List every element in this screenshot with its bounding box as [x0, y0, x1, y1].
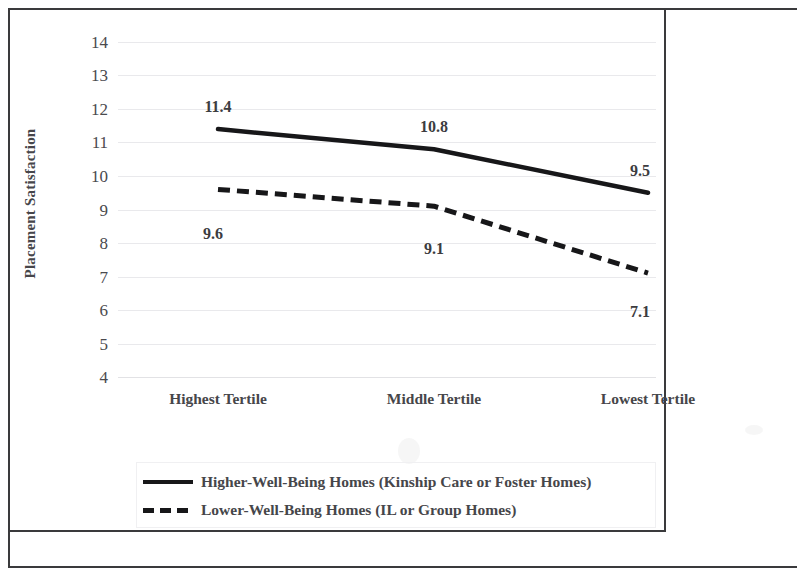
data-label-dashed-0: 9.6	[190, 225, 236, 243]
gridline-6	[118, 310, 656, 311]
y-tick-7: 7	[74, 269, 108, 286]
y-tick-12: 12	[74, 101, 108, 118]
y-tick-10: 10	[74, 168, 108, 185]
x-tick-lowest-tertile: Lowest Tertile	[568, 390, 728, 408]
gridline-5	[118, 344, 656, 345]
y-tick-5: 5	[74, 336, 108, 353]
data-label-solid-2: 9.5	[617, 162, 663, 180]
y-tick-8: 8	[74, 235, 108, 252]
y-tick-11: 11	[74, 134, 108, 151]
gridline-10	[118, 176, 656, 177]
series-line-lower-well-being	[218, 189, 648, 273]
chart-legend: Higher-Well-Being Homes (Kinship Care or…	[136, 462, 656, 528]
legend-label-lower-well-being: Lower-Well-Being Homes (IL or Group Home…	[201, 501, 516, 519]
y-tick-9: 9	[74, 202, 108, 219]
gridline-11	[118, 142, 656, 143]
y-tick-6: 6	[74, 302, 108, 319]
data-label-dashed-1: 9.1	[411, 240, 457, 258]
legend-item-lower-well-being: Lower-Well-Being Homes (IL or Group Home…	[143, 497, 516, 523]
data-label-solid-1: 10.8	[411, 118, 457, 136]
gridline-13	[118, 75, 656, 76]
x-tick-middle-tertile: Middle Tertile	[354, 390, 514, 408]
gridline-8	[118, 243, 656, 244]
x-tick-highest-tertile: Highest Tertile	[138, 390, 298, 408]
series-line-higher-well-being	[218, 129, 648, 193]
y-axis-title: Placement Satisfaction	[22, 104, 39, 304]
legend-dashed-line-icon	[143, 503, 193, 517]
legend-label-higher-well-being: Higher-Well-Being Homes (Kinship Care or…	[201, 473, 591, 491]
y-tick-14: 14	[74, 34, 108, 51]
gridline-4	[118, 377, 656, 378]
legend-solid-line-icon	[143, 475, 193, 489]
y-tick-4: 4	[74, 369, 108, 386]
gridline-9	[118, 210, 656, 211]
legend-item-higher-well-being: Higher-Well-Being Homes (Kinship Care or…	[143, 469, 591, 495]
gridline-7	[118, 277, 656, 278]
gridline-14	[118, 42, 656, 43]
data-label-dashed-2: 7.1	[617, 303, 663, 321]
data-label-solid-0: 11.4	[195, 98, 241, 116]
y-tick-13: 13	[74, 67, 108, 84]
